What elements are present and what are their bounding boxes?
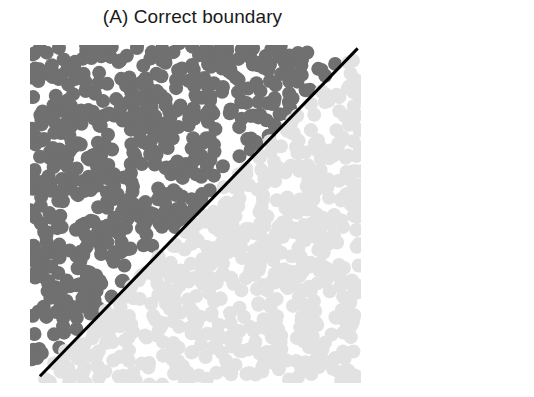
figure-panel: (A) Correct boundary bbox=[0, 0, 534, 397]
plot-area bbox=[30, 45, 361, 383]
scatter-plot-canvas bbox=[30, 45, 361, 383]
page-title: (A) Correct boundary bbox=[0, 6, 385, 28]
